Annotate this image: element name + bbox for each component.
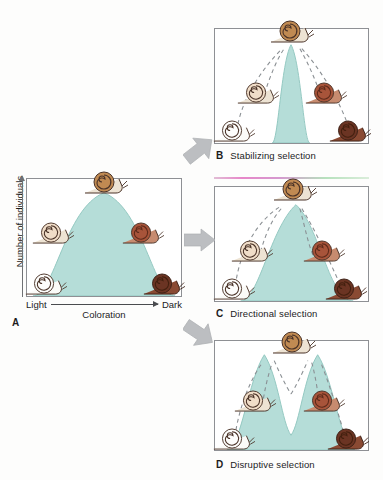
snail-medium-brown-right bbox=[301, 239, 345, 264]
snail-cream-left bbox=[235, 81, 279, 106]
flow-arrow-to-panel-c bbox=[184, 228, 216, 252]
flow-arrow-to-panel-d bbox=[183, 318, 217, 350]
x-axis-right-label: Dark bbox=[162, 299, 182, 310]
snail-white-bottom-left bbox=[23, 272, 67, 297]
panel-d-letter: D bbox=[216, 459, 223, 470]
snail-tan-top bbox=[82, 170, 128, 196]
snail-white-bottom-left bbox=[211, 427, 255, 452]
panel-b-caption: BStabilizing selection bbox=[216, 150, 316, 161]
panel-c-caption-text: Directional selection bbox=[230, 308, 317, 319]
snail-tan-top bbox=[271, 177, 317, 203]
x-axis-left-label: Light bbox=[26, 299, 47, 310]
y-axis-arrow-icon bbox=[19, 175, 25, 181]
panel-c-letter: C bbox=[216, 308, 223, 319]
snail-dark-brown-bottom-right bbox=[325, 427, 369, 452]
panel-a-letter: A bbox=[12, 317, 19, 328]
snail-medium-brown-right bbox=[303, 81, 347, 106]
snail-cream-left bbox=[30, 221, 74, 246]
panel-b-chart bbox=[214, 28, 369, 144]
snail-dark-brown-bottom-right bbox=[141, 272, 185, 297]
panel-d-caption: DDisruptive selection bbox=[216, 459, 315, 470]
panel-d-caption-text: Disruptive selection bbox=[230, 459, 314, 470]
panel-c-caption: CDirectional selection bbox=[216, 308, 317, 319]
snail-white-bottom-left bbox=[211, 119, 255, 144]
panel-b-letter: B bbox=[216, 150, 223, 161]
panel-a-chart bbox=[26, 178, 182, 297]
snail-tan-top bbox=[268, 19, 314, 45]
snail-cream-left bbox=[229, 239, 273, 264]
snail-medium-brown-right bbox=[301, 389, 345, 414]
snail-cream-left bbox=[232, 389, 276, 414]
panel-a-caption: A bbox=[12, 317, 26, 328]
snail-dark-brown-bottom-right bbox=[323, 277, 367, 302]
snail-medium-brown-right bbox=[120, 221, 164, 246]
panel-d-chart bbox=[214, 340, 369, 451]
flow-arrow-to-panel-b bbox=[183, 133, 217, 165]
snail-tan-top bbox=[270, 330, 316, 356]
x-axis-arrow-icon bbox=[51, 304, 158, 305]
x-axis-title: Coloration bbox=[26, 309, 182, 320]
panel-b-caption-text: Stabilizing selection bbox=[230, 150, 316, 161]
snail-dark-brown-bottom-right bbox=[327, 119, 371, 144]
panel-c-chart bbox=[214, 186, 369, 302]
panel-a-group: Number of individuals bbox=[0, 176, 195, 326]
snail-white-bottom-left bbox=[211, 277, 255, 302]
